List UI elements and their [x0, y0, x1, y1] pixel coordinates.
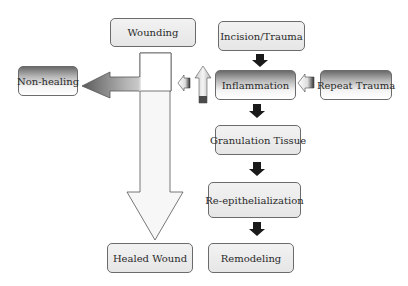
granulation-tissue-node: Granulation Tissue: [215, 125, 301, 155]
inflammation-to-wounding-arrow: [178, 75, 190, 91]
repeat-trauma-node: Repeat Trauma: [320, 70, 392, 100]
inflammation-to-granulation-arrow: [249, 104, 265, 118]
reepithelialization-to-remodeling-arrow: [249, 222, 265, 236]
incision-trauma-node: Incision/Trauma: [218, 21, 305, 51]
healed-wound-node: Healed Wound: [107, 243, 193, 273]
reepithelialization-node: Re-epithelialization: [208, 182, 301, 218]
granulation-to-reepithelialization-arrow: [249, 162, 265, 176]
repeat-trauma-to-inflammation-arrow: [298, 74, 314, 92]
remodeling-node: Remodeling: [208, 243, 294, 273]
arrows-layer: [0, 0, 408, 286]
up-arrow: [195, 66, 211, 103]
incision-to-inflammation-arrow: [252, 54, 268, 67]
inflammation-node: Inflammation: [215, 70, 296, 100]
wounding-node: Wounding: [110, 18, 196, 47]
non-healing-node: Non-healing: [18, 66, 78, 96]
